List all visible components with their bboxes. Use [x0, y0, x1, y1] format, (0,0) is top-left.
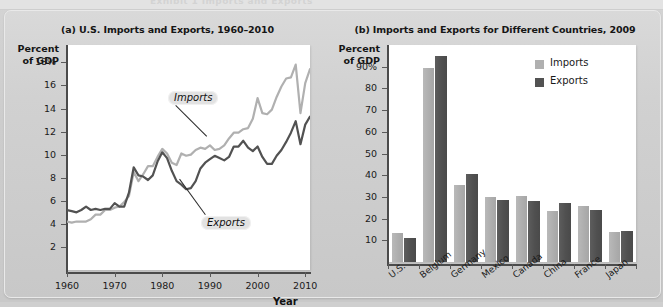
- panel-b-category-tick-mark: [543, 264, 544, 269]
- panel-a-y-tick-mark: [61, 178, 66, 179]
- panel-a-x-tick-mark: [115, 272, 116, 277]
- panel-b-y-tick-mark: [382, 219, 387, 220]
- panel-b-category-tick-mark: [481, 264, 482, 269]
- bar-us-imports: [392, 233, 404, 262]
- panel-b-y-tick-mark: [382, 175, 387, 176]
- panel-b-y-tick-mark: [382, 197, 387, 198]
- panel-b-y-tick-label: 50: [334, 148, 377, 159]
- bar-us-exports: [404, 238, 416, 262]
- panel-a-x-tick-mark: [305, 272, 306, 277]
- panel-a-y-tick-mark: [61, 247, 66, 248]
- panel-b-category-tick-mark: [574, 264, 575, 269]
- panel-a-line-exports: [67, 117, 310, 213]
- panel-a-x-tick-mark: [67, 272, 68, 277]
- bar-germany-exports: [466, 174, 478, 262]
- panel-a-y-tick-label: 4: [13, 218, 56, 229]
- panel-b-y-tick-label: 40: [334, 169, 377, 180]
- bar-china-exports: [559, 203, 571, 262]
- panel-a-x-tick-label: 2010: [283, 280, 327, 291]
- panel-a-y-tick-label: 6: [13, 195, 56, 206]
- panel-a-y-tick-label: 16: [13, 79, 56, 90]
- cut-off-header-text: Exhibit 1 Imports and Exports: [150, 0, 313, 6]
- panel-b-y-tick-label: 10: [334, 234, 377, 245]
- panel-a-imports-callout: Imports: [168, 91, 218, 105]
- panel-a-x-axis-title: Year: [273, 296, 298, 307]
- panel-b-y-tick-mark: [382, 110, 387, 111]
- panel-b-y-tick-label: 70: [334, 104, 377, 115]
- panel-a-y-tick-mark: [61, 85, 66, 86]
- panel-a-x-tick-mark: [258, 272, 259, 277]
- panel-a-x-tick-label: 1990: [188, 280, 232, 291]
- panel-b-y-tick-label: 80: [334, 82, 377, 93]
- panel-a-y-tick-label: 10: [13, 149, 56, 160]
- panel-a-y-tick-mark: [61, 224, 66, 225]
- panel-a-y-tick-label: 12: [13, 126, 56, 137]
- panel-b-category-tick-mark: [605, 264, 606, 269]
- panel-a-y-tick-mark: [61, 109, 66, 110]
- panel-a-exports-callout: Exports: [201, 216, 251, 230]
- bar-belgium-exports: [435, 56, 447, 262]
- panel-b-y-tick-mark: [382, 154, 387, 155]
- panel-b-category-tick-mark: [450, 264, 451, 269]
- panel-a-y-tick-mark: [61, 62, 66, 63]
- panel-a-y-tick-label: 14: [13, 103, 56, 114]
- panel-a-line-imports: [67, 65, 310, 223]
- legend-swatch-imports-icon: [535, 60, 544, 69]
- panel-a-x-tick-label: 1980: [140, 280, 184, 291]
- panel-b-y-tick-label: 60: [334, 126, 377, 137]
- legend-swatch-exports-icon: [535, 78, 544, 87]
- panel-b-category-tick-mark: [636, 264, 637, 269]
- bar-china-imports: [547, 211, 559, 262]
- cut-off-header-strip: Exhibit 1 Imports and Exports: [0, 0, 663, 10]
- panel-a-series-lines: [67, 45, 310, 270]
- panel-a-y-tick-mark: [61, 132, 66, 133]
- panel-b-title: (b) Imports and Exports for Different Co…: [330, 24, 660, 35]
- bar-japan-imports: [609, 232, 621, 262]
- panel-b-y-tick-label: 90%: [334, 61, 377, 72]
- panel-a-x-axis-line: [66, 272, 311, 274]
- bar-germany-imports: [454, 185, 466, 262]
- bar-belgium-imports: [423, 68, 435, 262]
- panel-b-y-tick-mark: [382, 88, 387, 89]
- panel-a-y-tick-label: 18%: [13, 56, 56, 67]
- panel-b-category-tick-mark: [388, 264, 389, 269]
- panel-b-y-tick-mark: [382, 67, 387, 68]
- panel-a-y-tick-label: 2: [13, 241, 56, 252]
- panel-a-x-tick-label: 2000: [236, 280, 280, 291]
- panel-b-bar-chart: (b) Imports and Exports for Different Co…: [330, 11, 660, 297]
- bar-canada-imports: [516, 196, 528, 262]
- panel-b-y-tick-mark: [382, 132, 387, 133]
- panel-b-category-tick-mark: [512, 264, 513, 269]
- panel-b-y-tick-mark: [382, 240, 387, 241]
- panel-a-x-tick-mark: [162, 272, 163, 277]
- legend-label-imports: Imports: [550, 57, 588, 68]
- panel-a-x-tick-label: 1960: [45, 280, 89, 291]
- panel-a-title: (a) U.S. Imports and Exports, 1960–2010: [5, 24, 330, 35]
- panel-b-y-tick-label: 30: [334, 191, 377, 202]
- panel-a-x-tick-mark: [210, 272, 211, 277]
- panel-b-category-tick-mark: [419, 264, 420, 269]
- legend-label-exports: Exports: [550, 75, 588, 86]
- panel-a-y-tick-mark: [61, 155, 66, 156]
- panel-b-y-tick-label: 20: [334, 213, 377, 224]
- panel-a-y-tick-label: 8: [13, 172, 56, 183]
- figure-card: (a) U.S. Imports and Exports, 1960–2010 …: [4, 10, 661, 298]
- panel-a-line-chart: (a) U.S. Imports and Exports, 1960–2010 …: [5, 11, 330, 297]
- panel-a-y-tick-mark: [61, 201, 66, 202]
- panel-b-bars-container: [388, 45, 636, 262]
- bar-france-imports: [578, 206, 590, 262]
- panel-a-x-tick-label: 1970: [93, 280, 137, 291]
